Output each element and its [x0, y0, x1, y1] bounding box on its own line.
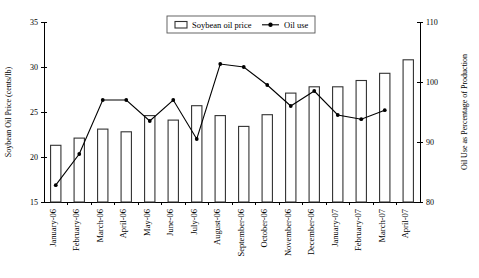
right-axis-tick-label: 100 — [426, 78, 438, 87]
oil-use-point-october-06 — [265, 83, 269, 87]
bar-july-06 — [192, 106, 202, 202]
bar-april-06 — [121, 132, 131, 202]
legend-line-label: Oil use — [284, 20, 309, 30]
oil-use-point-november-06 — [289, 104, 293, 108]
bar-january-07 — [333, 87, 343, 202]
left-axis-tick-label: 35 — [30, 18, 38, 27]
bar-february-07 — [356, 81, 366, 203]
x-axis-category-label: March-07 — [377, 209, 387, 243]
x-axis-category-label: May-06 — [142, 209, 152, 236]
oil-use-point-january-06 — [54, 183, 58, 187]
bar-february-06 — [74, 138, 84, 202]
oil-use-point-august-06 — [218, 62, 222, 66]
left-axis-tick-label: 30 — [30, 63, 38, 72]
bar-december-06 — [309, 87, 319, 202]
x-axis-category-label: September-06 — [236, 209, 246, 257]
oil-use-point-june-06 — [171, 98, 175, 102]
oil-use-point-january-07 — [336, 113, 340, 117]
oil-use-point-may-06 — [148, 119, 152, 123]
right-axis-title: Oil Use as Percentage of Production — [460, 54, 469, 170]
bar-june-06 — [168, 120, 178, 202]
x-axis-category-label: January-07 — [330, 209, 340, 247]
oil-use-point-december-06 — [312, 89, 316, 93]
legend-bar-label: Soybean oil price — [192, 20, 252, 30]
x-axis-category-label: April-06 — [118, 209, 128, 238]
x-axis-category-label: November-06 — [283, 209, 293, 256]
oil-use-point-september-06 — [242, 65, 246, 69]
oil-use-point-july-06 — [195, 137, 199, 141]
bar-march-06 — [98, 129, 108, 202]
bar-november-06 — [286, 93, 296, 202]
left-axis-tick-label: 25 — [30, 108, 38, 117]
right-axis-tick-label: 110 — [426, 18, 438, 27]
x-axis-category-label: August-06 — [212, 209, 222, 245]
bar-march-07 — [380, 73, 390, 202]
oil-use-point-march-07 — [383, 108, 387, 112]
bar-october-06 — [262, 115, 272, 202]
x-axis-category-label: March-06 — [95, 209, 105, 243]
x-axis-category-label: December-06 — [306, 209, 316, 255]
oil-use-point-april-06 — [124, 98, 128, 102]
bar-january-06 — [51, 145, 61, 202]
x-axis-category-label: July-06 — [189, 209, 199, 235]
left-axis-title: Soybean Oil Price (cents/lb) — [4, 66, 13, 157]
x-axis-category-label: April-07 — [400, 209, 410, 238]
bar-august-06 — [215, 116, 225, 202]
dual-axis-bar-line-chart: 15202530358090100110January-06February-0… — [0, 0, 479, 278]
bar-may-06 — [145, 116, 155, 202]
oil-use-point-february-06 — [77, 152, 81, 156]
chart-container: 15202530358090100110January-06February-0… — [0, 0, 479, 278]
right-axis-tick-label: 80 — [426, 198, 434, 207]
x-axis-category-label: June-06 — [165, 209, 175, 236]
x-axis-category-label: January-06 — [48, 209, 58, 247]
x-axis-category-label: February-06 — [71, 209, 81, 251]
x-axis-category-label: February-07 — [353, 209, 363, 251]
oil-use-point-february-07 — [359, 117, 363, 121]
bar-september-06 — [239, 126, 249, 202]
bar-april-07 — [403, 60, 413, 202]
left-axis-tick-label: 15 — [30, 198, 38, 207]
oil-use-point-march-06 — [101, 98, 105, 102]
right-axis-tick-label: 90 — [426, 138, 434, 147]
legend-line-marker — [268, 23, 272, 27]
x-axis-category-label: October-06 — [259, 209, 269, 248]
left-axis-tick-label: 20 — [30, 153, 38, 162]
legend-bar-swatch — [175, 22, 187, 29]
